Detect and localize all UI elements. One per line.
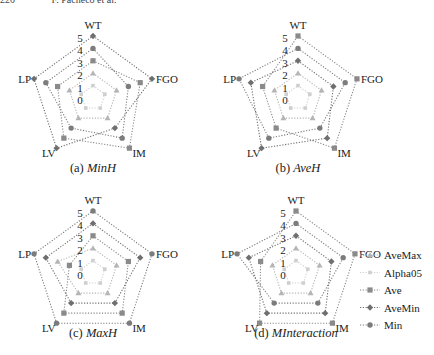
ave-marker-icon	[55, 84, 60, 89]
alpha05-marker-icon	[103, 92, 107, 96]
legend-label-min: Min	[384, 319, 403, 331]
axis-label-lp: LP	[221, 248, 234, 260]
alpha05-marker-icon	[303, 106, 307, 110]
ave-marker-icon	[258, 259, 263, 264]
series-line-alpha05	[284, 261, 308, 283]
avemin-marker-icon	[248, 79, 254, 85]
panel-caption: (d) MInteraction	[254, 326, 338, 340]
ave-marker-icon	[260, 84, 265, 89]
radial-tick-label: 3	[77, 232, 83, 244]
radial-tick-label: 4	[77, 219, 83, 231]
radial-tick-label: 1	[77, 257, 83, 269]
min-marker-icon	[119, 135, 124, 140]
radial-tick-label: 0	[282, 94, 288, 106]
legend-min-marker-icon	[367, 322, 372, 327]
alpha05-marker-icon	[294, 259, 298, 263]
axis-label-lv: LV	[42, 147, 56, 159]
legend-label-alpha05: Alpha05	[384, 267, 422, 279]
axis-label-lp: LP	[223, 73, 236, 85]
radial-tick-label: 0	[280, 269, 286, 281]
ave-marker-icon	[90, 233, 95, 238]
min-marker-icon	[317, 125, 322, 130]
alpha05-marker-icon	[91, 84, 95, 88]
legend-label-ave: Ave	[384, 284, 402, 296]
legend-alpha05-marker-icon	[368, 271, 372, 275]
avemax-marker-icon	[293, 245, 299, 250]
avemax-marker-icon	[280, 115, 286, 120]
series-line-alpha05	[81, 86, 105, 108]
ave-marker-icon	[352, 251, 357, 256]
min-marker-icon	[127, 320, 132, 325]
avemin-marker-icon	[324, 135, 330, 141]
avemin-marker-icon	[43, 254, 49, 260]
avemin-marker-icon	[68, 300, 74, 306]
series-line-avemin	[34, 36, 152, 148]
series-line-ave	[64, 236, 129, 313]
min-marker-icon	[266, 135, 271, 140]
radial-tick-label: 1	[280, 257, 286, 269]
min-marker-icon	[293, 221, 298, 226]
ave-marker-icon	[274, 125, 279, 130]
alpha05-marker-icon	[98, 281, 102, 285]
radial-tick-label: 5	[77, 207, 83, 219]
avemin-marker-icon	[112, 300, 118, 306]
radial-tick-label: 2	[280, 244, 286, 256]
alpha05-marker-icon	[91, 259, 95, 263]
panel-caption: (a) MinH	[70, 161, 117, 175]
series-line-avemin	[251, 61, 334, 148]
min-marker-icon	[149, 251, 154, 256]
radial-tick-label: 2	[77, 244, 83, 256]
min-marker-icon	[295, 46, 300, 51]
radial-tick-label: 3	[282, 57, 288, 69]
radial-tick-label: 4	[282, 44, 288, 56]
radar-panel-minh: 012345WTFGOIMLVLP(a) MinH	[18, 19, 178, 175]
alpha05-marker-icon	[103, 267, 107, 271]
axis-label-im: IM	[132, 147, 146, 159]
avemax-marker-icon	[278, 290, 284, 295]
avemax-marker-icon	[66, 87, 72, 92]
radial-tick-label: 3	[280, 232, 286, 244]
axis-label-lv: LV	[42, 322, 56, 334]
avemin-marker-icon	[137, 254, 143, 260]
avemin-marker-icon	[322, 310, 328, 316]
radial-tick-label: 2	[282, 69, 288, 81]
radial-tick-label: 3	[77, 57, 83, 69]
ave-marker-icon	[61, 311, 66, 316]
radar-panel-minteraction: 012345WTFGOIMLVLP(d) MInteraction	[221, 194, 381, 340]
ave-marker-icon	[354, 76, 359, 81]
ave-marker-icon	[330, 321, 335, 326]
ave-marker-icon	[67, 263, 72, 268]
min-marker-icon	[234, 251, 239, 256]
axis-label-lv: LV	[247, 147, 261, 159]
axis-label-wt: WT	[84, 194, 101, 206]
avemin-marker-icon	[328, 258, 334, 264]
radial-tick-label: 5	[282, 32, 288, 44]
series-line-min	[34, 211, 152, 323]
alpha05-marker-icon	[84, 281, 88, 285]
min-marker-icon	[90, 46, 95, 51]
chart-legend: AveMaxAlpha05AveAveMinMin	[360, 249, 422, 331]
legend-label-avemax: AveMax	[384, 249, 422, 261]
avemax-marker-icon	[308, 290, 314, 295]
radial-tick-label: 0	[77, 94, 83, 106]
avemax-marker-icon	[55, 259, 61, 264]
avemin-marker-icon	[264, 310, 270, 316]
ave-marker-icon	[293, 208, 298, 213]
radar-panel-aveh: 012345WTFGOIMLVLP(b) AveH	[223, 19, 383, 175]
radar-panel-maxh: 012345WTFGOIMLVLP(c) MaxH	[18, 194, 178, 340]
avemax-marker-icon	[90, 245, 96, 250]
axis-label-lp: LP	[18, 248, 31, 260]
min-marker-icon	[31, 251, 36, 256]
min-marker-icon	[236, 76, 241, 81]
series-line-alpha05	[81, 261, 105, 283]
axis-label-wt: WT	[84, 19, 101, 31]
radial-tick-label: 0	[77, 269, 83, 281]
legend-ave-marker-icon	[367, 287, 372, 292]
alpha05-marker-icon	[296, 84, 300, 88]
radial-tick-label: 5	[77, 32, 83, 44]
alpha05-marker-icon	[301, 281, 305, 285]
radar-figure: 012345WTFGOIMLVLP(a) MinH 012345WTFGOIML…	[0, 0, 434, 355]
ave-marker-icon	[61, 136, 66, 141]
avemax-marker-icon	[105, 290, 111, 295]
avemax-marker-icon	[75, 115, 81, 120]
